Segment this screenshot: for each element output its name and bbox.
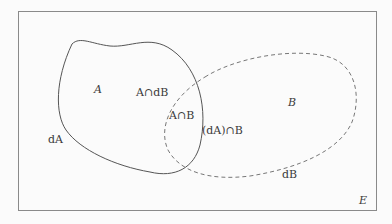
venn-diagram: A A∩dB A∩B (dA)∩B B dA dB E: [0, 0, 392, 224]
boundary-b-label: dB: [282, 169, 297, 180]
boundary-a-label: dA: [48, 134, 63, 145]
set-a-boundary: [58, 41, 203, 174]
region-a-cap-db-label: A∩dB: [136, 87, 168, 98]
universe-label: E: [359, 195, 367, 206]
set-b-label: B: [288, 97, 296, 108]
universe-frame: [19, 12, 377, 211]
region-a-cap-b-label: A∩B: [169, 110, 194, 121]
region-da-cap-b-label: (dA)∩B: [202, 125, 243, 136]
diagram-canvas: [0, 0, 392, 224]
set-a-label: A: [94, 84, 102, 95]
